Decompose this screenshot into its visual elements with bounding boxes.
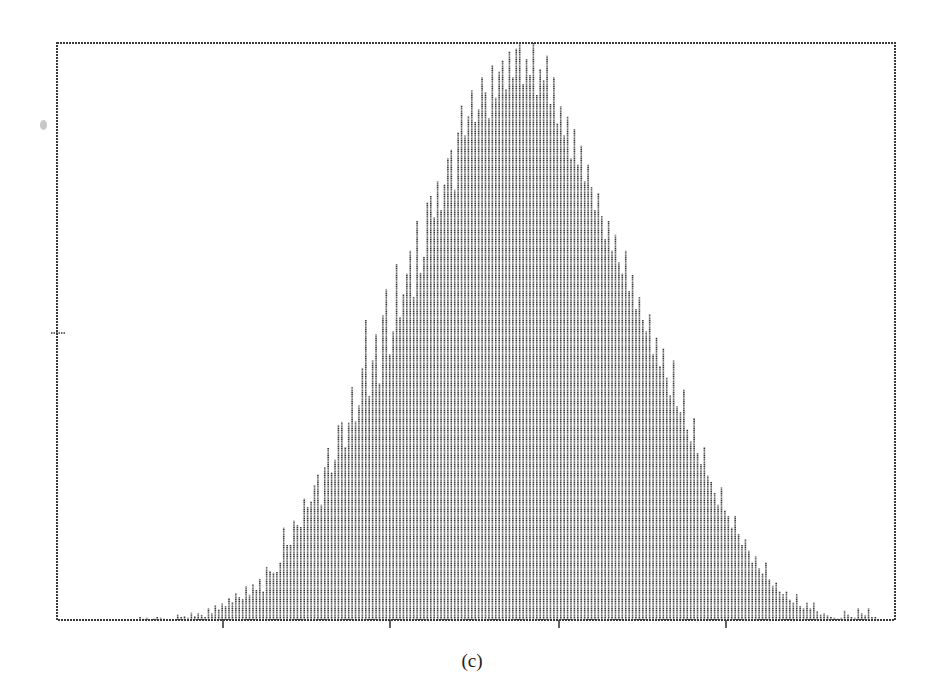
axis-ticks: [51, 333, 726, 628]
figure-caption: (c): [0, 650, 944, 672]
histogram-chart: [0, 0, 944, 699]
histogram-bars: [140, 43, 875, 620]
scan-smudge: [40, 120, 47, 130]
